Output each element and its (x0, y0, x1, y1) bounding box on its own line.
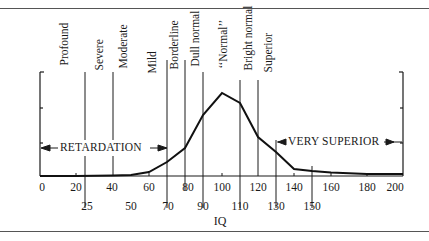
label-dull-normal: Dull normal (190, 11, 202, 67)
boundary-lines (85, 60, 312, 208)
tick-100: 100 (213, 182, 230, 194)
tick-40: 40 (106, 182, 118, 194)
tick-110: 110 (232, 201, 249, 213)
label-superior: Superior (263, 33, 275, 73)
tick-60: 60 (143, 182, 155, 194)
retardation-label: RETARDATION (59, 142, 143, 154)
tick-80: 80 (182, 182, 194, 194)
iq-distribution-diagram: Profound Severe Moderate Mild Borderline… (0, 0, 429, 241)
label-borderline: Borderline (169, 20, 181, 69)
right-frame (399, 72, 403, 176)
x-axis-title: IQ (214, 215, 227, 227)
left-frame (40, 72, 44, 176)
tick-200: 200 (386, 182, 403, 194)
tick-140: 140 (285, 182, 302, 194)
label-normal: ‘‘Normal’’ (218, 20, 230, 69)
tick-0: 0 (39, 182, 45, 194)
tick-160: 160 (322, 182, 339, 194)
tick-90: 90 (197, 201, 209, 213)
label-severe: Severe (94, 39, 106, 70)
tick-20: 20 (70, 182, 82, 194)
tick-130: 130 (267, 201, 284, 213)
tick-50: 50 (125, 201, 137, 213)
tick-150: 150 (303, 201, 320, 213)
tick-25: 25 (81, 201, 93, 213)
label-profound: Profound (59, 23, 71, 66)
label-bright-normal: Bright normal (243, 6, 255, 71)
tick-70: 70 (162, 201, 174, 213)
label-mild: Mild (147, 51, 159, 73)
very-superior-label: VERY SUPERIOR (287, 136, 380, 148)
tick-120: 120 (249, 182, 266, 194)
tick-180: 180 (358, 182, 375, 194)
label-moderate: Moderate (118, 24, 130, 68)
